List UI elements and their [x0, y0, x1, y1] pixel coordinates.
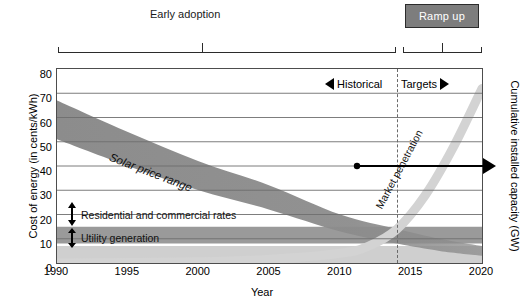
double-arrow-utility-icon	[67, 227, 77, 249]
x-tick-2010: 2010	[327, 265, 351, 277]
y-tick-20: 20	[22, 214, 52, 226]
x-tick-2000: 2000	[185, 265, 209, 277]
bracket-bar	[58, 52, 396, 53]
y-tick-30: 30	[22, 189, 52, 201]
phase-label-ramp-up-text: Ramp up	[419, 10, 465, 22]
y-tick-10: 10	[22, 238, 52, 250]
bracket-right-cap	[395, 47, 396, 53]
x-axis-tick-labels: 1990199520002005201020152020	[56, 265, 481, 281]
bracket-early-adoption	[58, 43, 396, 57]
bracket-right-cap	[481, 47, 482, 53]
bracket-center-tick	[202, 43, 203, 53]
y-tick-80: 80	[22, 68, 52, 80]
left-arrow-icon	[325, 78, 334, 90]
y-tick-60: 60	[22, 117, 52, 129]
plot-area: Historical Targets Solar price range Mar…	[56, 68, 483, 264]
y-axis-right-title: Cumulative installed capacity (GW)	[509, 61, 521, 271]
bracket-ramp-up	[403, 43, 482, 57]
x-axis-title: Year	[0, 286, 524, 298]
phase-label-early-adoption: Early adoption	[150, 8, 220, 20]
x-tick-2015: 2015	[398, 265, 422, 277]
right-arrow-icon	[440, 78, 449, 90]
phase-label-ramp-up-box: Ramp up	[405, 4, 479, 28]
figure-root: Early adoption Ramp up Cost of energy (i…	[0, 0, 524, 308]
double-arrow-residential-icon	[67, 201, 77, 227]
x-tick-2005: 2005	[256, 265, 280, 277]
annotation-utility-generation: Utility generation	[81, 232, 159, 244]
y-axis-tick-labels: 80706050403020100	[20, 68, 52, 262]
annotation-historical-text: Historical	[337, 78, 382, 90]
annotation-residential-commercial-rates: Residential and commercial rates	[81, 209, 236, 221]
x-tick-1995: 1995	[115, 265, 139, 277]
y-tick-50: 50	[22, 141, 52, 153]
x-tick-1990: 1990	[44, 265, 68, 277]
annotation-historical: Historical	[325, 78, 382, 90]
bracket-center-tick	[442, 43, 443, 53]
y-tick-70: 70	[22, 92, 52, 104]
y-tick-40: 40	[22, 165, 52, 177]
annotation-targets-text: Targets	[401, 78, 437, 90]
annotation-targets: Targets	[401, 78, 449, 90]
x-tick-2020: 2020	[469, 265, 493, 277]
